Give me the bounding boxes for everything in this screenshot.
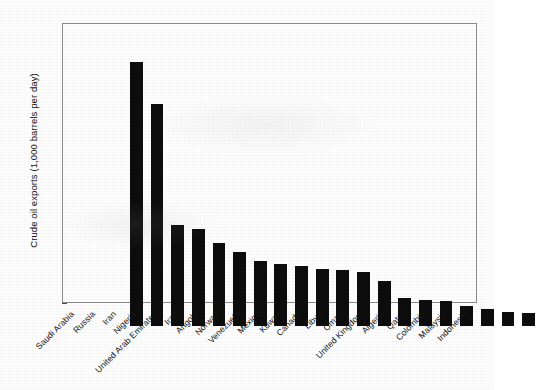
- y-tick-mark: [62, 303, 67, 304]
- bar: [233, 252, 246, 326]
- bar: [522, 313, 535, 326]
- bar: [254, 261, 267, 326]
- bar: [398, 298, 411, 326]
- bar: [295, 266, 308, 326]
- bar: [336, 270, 349, 326]
- bar: [213, 243, 226, 326]
- plot-area: [62, 23, 477, 303]
- bar: [440, 301, 453, 326]
- bar: [460, 306, 473, 326]
- bar: [192, 229, 205, 326]
- y-axis-title: Crude oil exports (1,000 barrels per day…: [28, 21, 39, 301]
- bar: [481, 309, 494, 326]
- bar: [171, 225, 184, 326]
- bar: [357, 272, 370, 326]
- bar-series: [126, 48, 539, 326]
- x-tick-label: Russia: [71, 309, 97, 335]
- bar: [316, 269, 329, 326]
- x-tick-label: Saudi Arabia: [34, 309, 76, 351]
- bar: [378, 281, 391, 326]
- bar: [151, 104, 164, 326]
- bar: [419, 300, 432, 326]
- bar: [274, 264, 287, 326]
- bar: [130, 62, 143, 326]
- x-tick-label: Iran: [100, 309, 118, 327]
- bar: [502, 312, 515, 326]
